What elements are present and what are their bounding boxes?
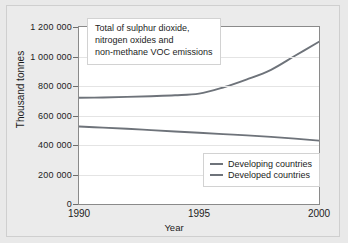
legend-label: Developing countries: [228, 159, 312, 169]
legend-label: Developed countries: [228, 170, 310, 180]
chart-legend: Developing countriesDeveloped countries: [203, 153, 320, 187]
x-axis-title: Year: [7, 222, 341, 233]
y-tick-label: 200 000: [38, 170, 72, 180]
chart-title: Total of sulphur dioxide, nitrogen oxide…: [87, 18, 221, 65]
y-tick-label: 400 000: [38, 140, 72, 150]
legend-item[interactable]: Developing countries: [210, 159, 312, 169]
legend-item[interactable]: Developed countries: [210, 170, 312, 180]
y-axis-tick-labels: 0200 000400 000600 000800 0001 000 0001 …: [7, 6, 78, 205]
y-tick-label: 1 200 000: [30, 22, 72, 32]
y-tick-label: 1 000 000: [30, 52, 72, 62]
x-tick-label: 2000: [308, 208, 330, 219]
gridline: [79, 145, 319, 146]
y-tick-label: 800 000: [38, 81, 72, 91]
legend-swatch-icon: [210, 174, 223, 176]
series-line: [79, 127, 319, 141]
chart-figure: Thousand tonnes 0200 000400 000600 00080…: [6, 5, 340, 237]
gridline: [79, 116, 319, 117]
x-tick-label: 1990: [68, 208, 90, 219]
x-tick-label: 1995: [188, 208, 210, 219]
gridline: [79, 86, 319, 87]
y-tick-label: 600 000: [38, 111, 72, 121]
legend-swatch-icon: [210, 163, 223, 165]
